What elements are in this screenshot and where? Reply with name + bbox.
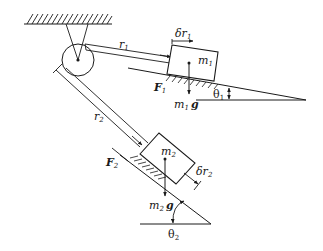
pulley [62, 44, 94, 76]
label-theta1: θ1 [213, 88, 224, 102]
ceiling [24, 14, 112, 24]
mechanics-diagram: r1 δr1 m1 F1 m1g θ1 r2 F2 m2 δr2 m2g θ2 [0, 0, 323, 251]
label-r1: r1 [119, 38, 129, 52]
label-m1g: m1g [174, 98, 199, 112]
rod-r2 [53, 64, 148, 147]
label-F1: F1 [153, 81, 166, 95]
label-theta2: θ2 [168, 228, 179, 242]
pulley-hanger [66, 24, 88, 60]
label-delta-r2: δr2 [196, 165, 213, 179]
label-m2g: m2g [149, 199, 174, 213]
label-F2: F2 [105, 156, 119, 170]
label-delta-r1: δr1 [175, 27, 191, 41]
theta2-arc [173, 201, 184, 223]
label-r2: r2 [94, 110, 104, 124]
